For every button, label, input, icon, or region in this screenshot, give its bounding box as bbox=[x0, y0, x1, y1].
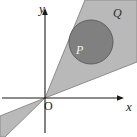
x-axis bbox=[2, 95, 124, 101]
figure-canvas: y x O Q P bbox=[0, 0, 137, 137]
diagram-svg bbox=[0, 0, 137, 137]
region-wedge-q bbox=[0, 0, 137, 137]
region-label-q: Q bbox=[113, 7, 122, 19]
region-disc-p bbox=[69, 20, 113, 64]
region-label-p: P bbox=[76, 44, 83, 56]
wedge-lower-sector bbox=[0, 98, 45, 137]
x-axis-label: x bbox=[126, 100, 132, 113]
y-axis bbox=[42, 8, 48, 133]
x-axis-arrow-icon bbox=[117, 95, 124, 101]
origin-label: O bbox=[44, 100, 53, 112]
y-axis-label: y bbox=[39, 2, 45, 15]
